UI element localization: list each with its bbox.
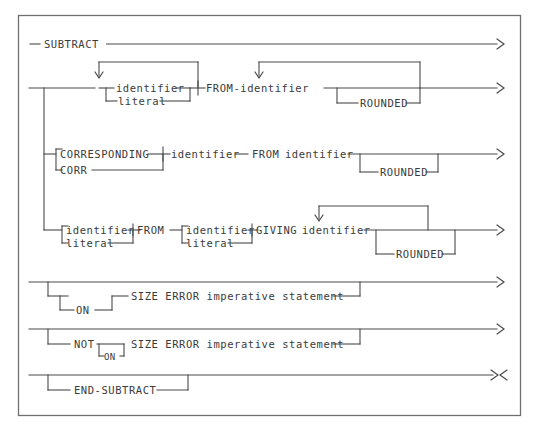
row-not-on-size-error: NOT ON SIZE ERROR imperative statement (29, 324, 504, 362)
token-rounded: ROUNDED (380, 166, 428, 178)
subtract-keyword-group: SUBTRACT (42, 36, 106, 52)
token-identifier-2: identifier (285, 148, 354, 160)
continue-arrow-icon (497, 149, 504, 159)
token-identifier-2: identifier (186, 224, 255, 236)
token-literal: literal (118, 95, 166, 107)
token-identifier: identifier (116, 82, 185, 94)
token-from-identifier: FROM-identifier (206, 82, 309, 94)
row-giving-format: identifier literal FROM identifier liter… (44, 206, 504, 260)
token-size-error-imperative: SIZE ERROR imperative statement (131, 338, 344, 350)
row-basic-format: identifier literal FROM-identifier (29, 62, 504, 230)
token-from-identifier: FROM (252, 148, 280, 160)
token-rounded: ROUNDED (360, 97, 408, 109)
token-corresponding: CORRESPONDING (60, 148, 149, 160)
row-on-size-error: ON SIZE ERROR imperative statement (29, 277, 504, 316)
token-identifier: identifier (66, 224, 135, 236)
token-on: ON (104, 352, 116, 362)
continue-arrow-icon (497, 39, 504, 49)
continue-arrow-icon (497, 225, 504, 235)
token-identifier-3: identifier (302, 224, 371, 236)
token-on: ON (76, 304, 90, 316)
token-corr: CORR (60, 164, 88, 176)
token-rounded: ROUNDED (396, 248, 444, 260)
token-end-subtract: END-SUBTRACT (74, 384, 157, 396)
syntax-diagram: identifier literal FROM-identifier (0, 0, 547, 431)
token-from: FROM (137, 224, 165, 236)
token-literal-2: literal (186, 237, 234, 249)
continue-arrow-icon (497, 277, 504, 287)
row-corresponding-format: CORRESPONDING CORR identifier FROM ident… (44, 147, 504, 178)
row-end-subtract: END-SUBTRACT (29, 370, 507, 396)
railroad-diagram-canvas: identifier literal FROM-identifier (0, 0, 547, 431)
continue-arrow-icon (497, 83, 504, 93)
token-size-error-imperative: SIZE ERROR imperative statement (131, 290, 344, 302)
token-identifier: identifier (171, 148, 240, 160)
token-literal: literal (66, 237, 114, 249)
token-not: NOT (74, 338, 95, 350)
continue-arrow-icon (497, 324, 504, 334)
token-subtract: SUBTRACT (44, 38, 99, 50)
diagram-frame (19, 16, 521, 416)
token-giving-identifier: GIVING (256, 224, 297, 236)
terminator-arrow-left-icon (500, 370, 507, 380)
